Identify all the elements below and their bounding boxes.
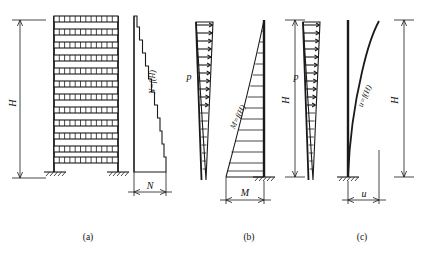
- figure-root: H: [0, 0, 432, 257]
- load-arrow: [196, 23, 212, 27]
- load-arrow: [197, 31, 212, 35]
- storey-band: [54, 68, 118, 74]
- storey-band: [54, 42, 118, 48]
- panel-a-caption: (a): [83, 232, 94, 243]
- load-arrow: [197, 39, 212, 43]
- panel-b-base-dimension-label: M: [240, 187, 250, 198]
- load-arrow: [303, 23, 319, 27]
- panel-a-support-left: [44, 172, 66, 176]
- panel-a-axial-diagram-label: N=f(H): [148, 70, 157, 95]
- panel-a-base-dimension-label: N: [146, 180, 155, 191]
- storey-band: [54, 16, 118, 22]
- panel-a-storey-bands: [54, 16, 118, 163]
- panel-b-support: [253, 177, 275, 181]
- storey-band: [54, 120, 118, 126]
- storey-band: [54, 55, 118, 61]
- panel-b-height-label: H: [280, 96, 291, 105]
- load-arrow: [197, 47, 211, 51]
- storey-band: [54, 94, 118, 100]
- load-arrow: [305, 55, 318, 59]
- panel-c-support: [337, 177, 359, 181]
- load-arrow: [304, 47, 318, 51]
- panel-a: H: [7, 16, 172, 243]
- panel-b-caption: (b): [243, 232, 254, 243]
- panel-b-moment-diagram: [226, 20, 264, 177]
- panel-b-load-label: p: [186, 71, 192, 82]
- load-arrow: [306, 79, 317, 83]
- load-arrow: [199, 79, 210, 83]
- storey-band: [54, 81, 118, 87]
- storey-band: [54, 146, 118, 152]
- panel-b: p M=f(H): [186, 20, 306, 243]
- load-arrow: [305, 63, 317, 67]
- load-arrow: [304, 39, 319, 43]
- load-arrow: [198, 63, 210, 67]
- panel-a-support-right: [107, 172, 129, 176]
- panel-a-building: [54, 16, 118, 172]
- panel-b-wind-load: [196, 22, 213, 180]
- panel-c-caption: (c): [357, 232, 368, 243]
- load-arrow: [198, 71, 210, 75]
- storey-band: [54, 133, 118, 139]
- storey-band: [54, 157, 118, 163]
- storey-band: [54, 29, 118, 35]
- storey-band: [54, 107, 118, 113]
- panel-a-height-label: H: [7, 99, 18, 108]
- load-arrow: [304, 31, 319, 35]
- panel-c: p u=f(H) H u (c): [293, 20, 415, 243]
- panel-c-load-label: p: [293, 71, 299, 82]
- panel-b-moment-diagram-label: M=f(H): [228, 103, 248, 131]
- panel-a-height-dimension: [12, 20, 46, 178]
- panel-c-wind-load: [303, 22, 320, 180]
- load-arrow: [198, 55, 211, 59]
- panel-c-base-dimension-label: u: [362, 188, 367, 199]
- load-arrow: [305, 71, 317, 75]
- structural-diagram-svg: H: [0, 0, 432, 257]
- panel-c-height-label: H: [389, 96, 400, 105]
